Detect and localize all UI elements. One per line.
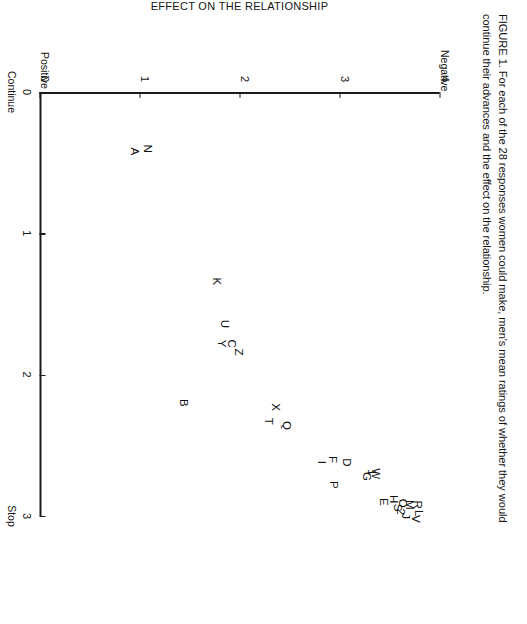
data-point-X: X (269, 403, 281, 411)
x-tick-label: 1 (20, 230, 32, 236)
data-point-P: P (327, 481, 339, 489)
caption-line-1: FIGURE 1. For each of the 28 responses w… (494, 14, 510, 574)
scatter-plot: 0123 01234 Continue Stop Positive Negati… (39, 92, 439, 516)
y-tick-mark (239, 92, 240, 98)
y-tick-mark (439, 92, 440, 98)
x-axis-high-label: Stop (5, 505, 17, 527)
caption-line-2: continue their advances and the effect o… (478, 14, 494, 574)
x-tick-label: 0 (20, 89, 32, 95)
x-tick-label: 3 (20, 513, 32, 519)
data-point-N: N (141, 144, 153, 152)
y-tick-label: 1 (138, 76, 150, 82)
figure-container: FIGURE 1. For each of the 28 responses w… (0, 0, 527, 624)
data-point-D: D (340, 458, 352, 466)
y-axis-title: EFFECT ON THE RELATIONSHIP (150, 0, 328, 12)
y-axis-high-label: Negative (438, 50, 450, 91)
data-point-T: T (262, 418, 274, 425)
x-axis-low-label: Continue (5, 71, 17, 113)
data-point-R: R (411, 501, 423, 509)
data-point-Q: Q (280, 421, 292, 430)
x-tick-mark (39, 233, 45, 234)
x-axis-line (39, 92, 41, 516)
data-point-1: 1 (365, 469, 377, 475)
data-point-I: I (315, 461, 327, 464)
x-tick-mark (39, 516, 45, 517)
data-point-U: U (218, 320, 230, 328)
x-tick-label: 2 (20, 372, 32, 378)
data-point-Y: Y (215, 340, 227, 348)
y-tick-mark (339, 92, 340, 98)
data-point-V: V (409, 515, 421, 523)
data-point-Z: Z (232, 349, 244, 356)
y-tick-mark (39, 92, 40, 98)
data-point-B: B (177, 399, 189, 407)
x-tick-mark (39, 375, 45, 376)
y-tick-label: 2 (238, 76, 250, 82)
figure-caption: FIGURE 1. For each of the 28 responses w… (478, 14, 509, 574)
y-tick-label: 3 (338, 76, 350, 82)
data-point-A: A (128, 148, 140, 156)
data-point-F: F (326, 456, 338, 463)
data-point-K: K (210, 278, 222, 286)
y-tick-mark (139, 92, 140, 98)
y-axis-low-label: Positive (38, 52, 50, 89)
